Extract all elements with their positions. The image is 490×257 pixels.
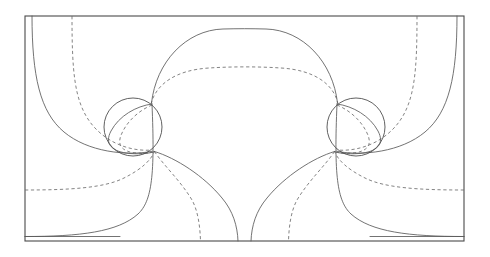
dashed-contour-group bbox=[25, 16, 464, 241]
left-inner-dashed-spiral bbox=[120, 105, 155, 153]
flow-field-canvas bbox=[0, 0, 490, 257]
right-dashed-vertical-contour bbox=[337, 16, 418, 150]
left-lower-sweep-streamline bbox=[25, 104, 153, 237]
right-cylinder bbox=[327, 98, 385, 156]
right-inner-dashed-spiral bbox=[335, 105, 370, 153]
left-outer-descending-streamline bbox=[32, 16, 152, 153]
top-arch-streamline bbox=[152, 29, 338, 103]
solid-streamline-group bbox=[25, 16, 464, 241]
left-dashed-stem-contour bbox=[155, 152, 201, 242]
right-dashed-stem-contour bbox=[289, 152, 335, 242]
left-dashed-horizontal-contour bbox=[25, 152, 155, 191]
left-inner-solid-spiral bbox=[108, 104, 154, 154]
cylinder-group bbox=[104, 98, 385, 156]
left-dashed-vertical-contour bbox=[72, 16, 153, 150]
centre-stem-left-streamline bbox=[155, 152, 239, 242]
right-lower-sweep-streamline bbox=[336, 104, 464, 237]
right-outer-descending-streamline bbox=[338, 16, 458, 153]
channel-frame bbox=[25, 16, 464, 241]
left-cylinder bbox=[104, 98, 162, 156]
right-inner-solid-spiral bbox=[335, 104, 381, 154]
streamline-figure bbox=[0, 0, 490, 257]
centre-stem-right-streamline bbox=[251, 152, 335, 242]
top-dashed-arch-contour bbox=[151, 67, 338, 104]
right-dashed-horizontal-contour bbox=[335, 152, 465, 191]
